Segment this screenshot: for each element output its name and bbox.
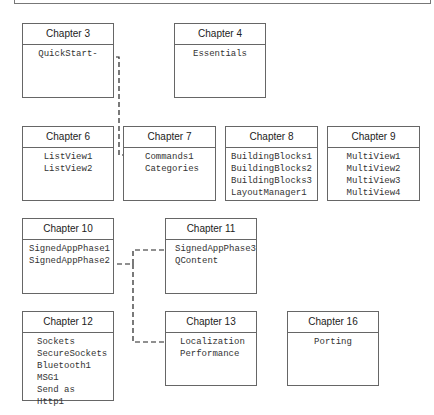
example-item: MSG1 <box>37 372 113 384</box>
example-item: BuildingBlocks1 <box>231 151 317 163</box>
chapter-box-ch3: Chapter 3QuickStart- <box>22 23 114 98</box>
example-list: QuickStart- <box>23 45 113 60</box>
example-item: MultiView3 <box>328 175 419 187</box>
chapter-box-ch16: Chapter 16Porting <box>287 311 379 386</box>
dashed-link <box>109 250 171 264</box>
chapter-box-ch10: Chapter 10SignedAppPhase1SignedAppPhase2 <box>22 218 114 294</box>
chapter-title: Chapter 13 <box>166 312 256 333</box>
chapter-title: Chapter 10 <box>23 219 113 240</box>
example-item: MultiView2 <box>328 163 419 175</box>
chapter-box-ch9: Chapter 9MultiView1MultiView2MultiView3M… <box>327 126 420 201</box>
example-item: MultiView4 <box>328 187 419 199</box>
chapter-box-ch13: Chapter 13LocalizationPerformance <box>165 311 257 386</box>
example-item: LayoutManager1 <box>231 187 317 199</box>
example-list: LocalizationPerformance <box>166 333 256 360</box>
example-list: BuildingBlocks1BuildingBlocks2BuildingBl… <box>226 148 317 199</box>
chapter-title: Chapter 7 <box>124 127 215 148</box>
chapter-dependency-diagram: Chapter 3QuickStart-Chapter 4EssentialsC… <box>0 0 434 415</box>
example-item: BuildingBlocks3 <box>231 175 317 187</box>
example-item: Commands1 <box>145 151 215 163</box>
chapter-box-ch11: Chapter 11SignedAppPhase3QContent <box>165 218 257 294</box>
example-item: Bluetooth1 <box>37 360 113 372</box>
example-list: SignedAppPhase1SignedAppPhase2 <box>23 240 113 267</box>
chapter-title: Chapter 9 <box>328 127 419 148</box>
chapter-title: Chapter 6 <box>23 127 113 148</box>
dashed-link <box>133 264 169 342</box>
example-item: SignedAppPhase1 <box>29 243 113 255</box>
chapter-box-ch4: Chapter 4Essentials <box>174 23 266 98</box>
example-list: Porting <box>288 333 378 348</box>
example-item: Essentials <box>175 48 265 60</box>
example-list: MultiView1MultiView2MultiView3MultiView4 <box>328 148 419 199</box>
example-item: QuickStart- <box>23 48 113 60</box>
chapter-title: Chapter 16 <box>288 312 378 333</box>
chapter-title: Chapter 12 <box>23 312 113 333</box>
example-item: SignedAppPhase3 <box>175 243 256 255</box>
example-item: Send as <box>37 384 113 396</box>
chapter-box-ch12: Chapter 12SocketsSecureSocketsBluetooth1… <box>22 311 114 401</box>
chapter-box-ch8: Chapter 8BuildingBlocks1BuildingBlocks2B… <box>225 126 318 201</box>
example-item: Http1 <box>37 396 113 408</box>
example-item: QContent <box>175 255 256 267</box>
example-item: Localization <box>180 336 256 348</box>
example-item: BuildingBlocks2 <box>231 163 317 175</box>
example-item: SecureSockets <box>37 348 113 360</box>
example-item: ListView2 <box>23 163 113 175</box>
chapter-title: Chapter 3 <box>23 24 113 45</box>
example-item: MultiView1 <box>328 151 419 163</box>
example-list: SignedAppPhase3QContent <box>166 240 256 267</box>
example-list: SocketsSecureSocketsBluetooth1MSG1Send a… <box>23 333 113 408</box>
example-item: Categories <box>145 163 215 175</box>
example-item: ListView1 <box>23 151 113 163</box>
chapter-title: Chapter 11 <box>166 219 256 240</box>
example-item: SignedAppPhase2 <box>29 255 113 267</box>
example-item: Sockets <box>37 336 113 348</box>
example-item: Porting <box>288 336 378 348</box>
chapter-title: Chapter 4 <box>175 24 265 45</box>
chapter-title: Chapter 8 <box>226 127 317 148</box>
chapter-box-ch6: Chapter 6ListView1ListView2 <box>22 126 114 201</box>
example-item: Performance <box>180 348 256 360</box>
example-list: Commands1Categories <box>124 148 215 175</box>
chapter-box-ch7: Chapter 7Commands1Categories <box>123 126 216 201</box>
example-list: ListView1ListView2 <box>23 148 113 175</box>
example-list: Essentials <box>175 45 265 60</box>
